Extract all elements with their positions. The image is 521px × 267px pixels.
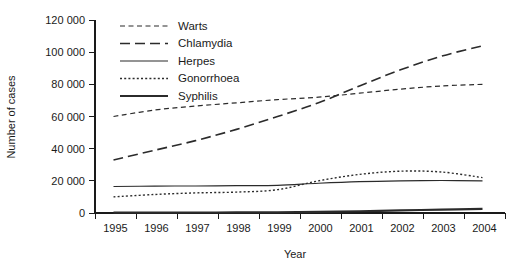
y-tick-label: 100 000 bbox=[45, 46, 85, 58]
x-axis-ticks: 1995199619971998199920002001200220032004 bbox=[95, 213, 505, 234]
x-tick-label: 1996 bbox=[144, 222, 168, 234]
x-tick-label: 1995 bbox=[103, 222, 127, 234]
x-tick-label: 1998 bbox=[226, 222, 250, 234]
y-tick-label: 60 000 bbox=[51, 111, 85, 123]
x-tick-label: 2000 bbox=[308, 222, 332, 234]
line-chart: 020 00040 00060 00080 000100 000120 000 … bbox=[0, 0, 521, 267]
series-line-chlamydia bbox=[114, 46, 483, 160]
y-tick-label: 40 000 bbox=[51, 143, 85, 155]
legend-label-chlamydia: Chlamydia bbox=[178, 37, 233, 49]
x-tick-label: 2001 bbox=[349, 222, 373, 234]
legend-label-warts: Warts bbox=[178, 20, 208, 32]
x-tick-label: 2004 bbox=[472, 222, 496, 234]
y-axis-ticks: 020 00040 00060 00080 000100 000120 000 bbox=[45, 14, 95, 219]
y-axis-title: Number of cases bbox=[5, 75, 17, 159]
series-line-syphilis bbox=[114, 209, 483, 213]
y-tick-label: 20 000 bbox=[51, 175, 85, 187]
y-tick-label: 120 000 bbox=[45, 14, 85, 26]
legend-label-gonorrhoea: Gonorrhoea bbox=[178, 72, 240, 84]
x-tick-label: 2002 bbox=[390, 222, 414, 234]
x-tick-label: 2003 bbox=[431, 222, 455, 234]
x-tick-label: 1999 bbox=[267, 222, 291, 234]
x-tick-label: 1997 bbox=[185, 222, 209, 234]
legend-label-syphilis: Syphilis bbox=[178, 90, 218, 102]
legend-label-herpes: Herpes bbox=[178, 55, 215, 67]
y-tick-label: 0 bbox=[79, 207, 85, 219]
chart-legend: WartsChlamydiaHerpesGonorrhoeaSyphilis bbox=[120, 20, 240, 102]
x-axis-title: Year bbox=[284, 248, 307, 260]
series-line-warts bbox=[114, 84, 483, 116]
series-lines bbox=[114, 46, 483, 213]
chart-container: 020 00040 00060 00080 000100 000120 000 … bbox=[0, 0, 521, 267]
y-tick-label: 80 000 bbox=[51, 78, 85, 90]
